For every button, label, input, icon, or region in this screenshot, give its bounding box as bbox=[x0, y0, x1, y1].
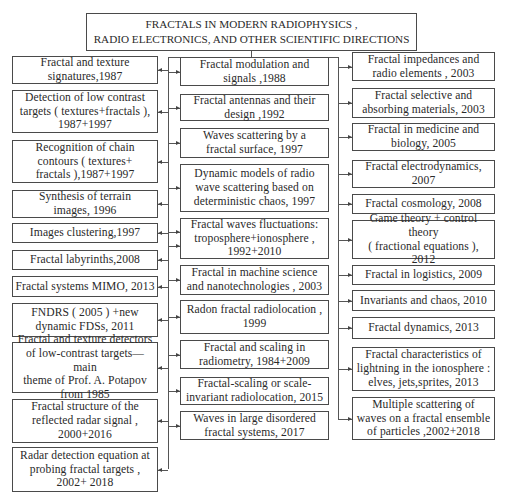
arrow-right-icon bbox=[176, 424, 180, 428]
right-box-11: Multiple scattering of waves on a fracta… bbox=[352, 397, 495, 440]
arrow-right-icon bbox=[176, 70, 180, 74]
middle-box-6: Fractal in machine science and nanotechn… bbox=[180, 265, 329, 295]
middle-box-1: Fractal modulation and signals ,1988 bbox=[180, 57, 329, 86]
arrow-left-icon bbox=[158, 160, 162, 164]
arrow-right-icon bbox=[348, 202, 352, 206]
left-rail-line bbox=[168, 57, 169, 469]
left-box-5: Images clustering,1997 bbox=[12, 223, 158, 243]
root-title-box: FRACTALS IN MODERN RADIOPHYSICS , RADIO … bbox=[86, 13, 417, 51]
middle-box-4: Dynamic models of radio wave scattering … bbox=[180, 164, 329, 212]
arrow-left-icon bbox=[158, 285, 162, 289]
right-box-6: Game theory + control theory ( fractiona… bbox=[352, 220, 495, 259]
middle-box-9: Fractal-scaling or scale- invariant radi… bbox=[180, 377, 329, 405]
right-box-5: Fractal cosmology, 2008 bbox=[352, 194, 495, 214]
right-box-3: Fractal in medicine and biology, 2005 bbox=[352, 123, 495, 151]
arrow-right-icon bbox=[348, 65, 352, 69]
middle-box-2: Fractal antennas and their design ,1992 bbox=[180, 94, 329, 121]
right-box-8: Invariants and chaos, 2010 bbox=[352, 290, 495, 311]
arrow-left-icon bbox=[158, 366, 162, 370]
arrow-right-icon bbox=[176, 244, 180, 248]
middle-box-8: Fractal and scaling in radiometry, 1984+… bbox=[180, 340, 329, 369]
arrow-right-icon bbox=[348, 417, 352, 421]
left-box-1: Fractal and texture signatures,1987 bbox=[12, 56, 158, 84]
right-box-4: Fractal electrodynamics, 2007 bbox=[352, 160, 495, 188]
arrow-right-icon bbox=[348, 326, 352, 330]
arrow-right-icon bbox=[348, 135, 352, 139]
arrow-left-icon bbox=[158, 110, 162, 114]
arrow-left-icon bbox=[158, 202, 162, 206]
arrow-right-icon bbox=[176, 353, 180, 357]
arrow-right-icon bbox=[176, 389, 180, 393]
left-box-6: Fractal labyrinths,2008 bbox=[12, 250, 158, 270]
left-box-11: Radar detection equation at probing frac… bbox=[12, 447, 158, 492]
arrow-right-icon bbox=[176, 230, 180, 234]
middle-box-7: Radon fractal radiolocation , 1999 bbox=[180, 300, 329, 334]
right-box-1: Fractal impedances and radio elements , … bbox=[352, 52, 495, 81]
arrow-right-icon bbox=[348, 101, 352, 105]
middle-box-5: Fractal waves fluctuations: troposphere+… bbox=[180, 218, 329, 259]
right-box-7: Fractal in logistics, 2009 bbox=[352, 265, 495, 285]
arrow-left-icon bbox=[158, 468, 162, 472]
arrow-left-icon bbox=[158, 258, 162, 262]
right-box-2: Fractal selective and absorbing material… bbox=[352, 88, 495, 118]
arrow-right-icon bbox=[348, 273, 352, 277]
arrow-left-icon bbox=[158, 68, 162, 72]
right-box-10: Fractal characteristics of lightning in … bbox=[352, 347, 495, 391]
arrow-right-icon bbox=[348, 172, 352, 176]
left-box-2: Detection of low contrast targets ( text… bbox=[12, 90, 158, 133]
left-box-4: Synthesis of terrain images, 1996 bbox=[12, 190, 158, 218]
arrow-left-icon bbox=[158, 318, 162, 322]
arrow-right-icon bbox=[176, 315, 180, 319]
left-box-10: Fractal structure of the reflected radar… bbox=[12, 399, 158, 443]
arrow-right-icon bbox=[348, 299, 352, 303]
middle-box-3: Waves scattering by a fractal surface, 1… bbox=[180, 128, 329, 158]
arrow-right-icon bbox=[176, 278, 180, 282]
left-box-7: Fractal systems MIMO, 2013 bbox=[12, 276, 158, 297]
arrow-left-icon bbox=[158, 231, 162, 235]
arrow-right-icon bbox=[348, 238, 352, 242]
arrow-right-icon bbox=[348, 367, 352, 371]
right-box-9: Fractal dynamics, 2013 bbox=[352, 317, 495, 339]
arrow-right-icon bbox=[176, 141, 180, 145]
left-box-3: Recognition of chain contours ( textures… bbox=[12, 140, 158, 183]
right-rail-line bbox=[338, 57, 339, 419]
left-box-8: FNDRS ( 2005 ) +new dynamic FDSs, 2011 bbox=[12, 303, 158, 337]
arrow-right-icon bbox=[176, 186, 180, 190]
arrow-right-icon bbox=[176, 106, 180, 110]
middle-box-10: Waves in large disordered fractal system… bbox=[180, 411, 329, 440]
arrow-left-icon bbox=[158, 419, 162, 423]
left-box-9: Fractal and texture detectors of low-con… bbox=[12, 342, 158, 393]
